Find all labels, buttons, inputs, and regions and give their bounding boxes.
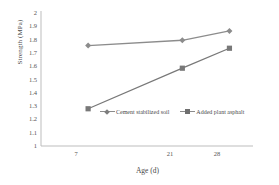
legend-label: Added plant asphalt xyxy=(196,109,244,115)
x-tick-label: 28 xyxy=(214,151,221,158)
legend-label: Cement stabilized soil xyxy=(116,109,169,115)
legend-item-added-plant-asphalt[interactable]: Added plant asphalt xyxy=(180,108,244,115)
square-marker-icon xyxy=(180,108,195,115)
x-axis-title: Age (d) xyxy=(41,166,254,175)
x-tick-label: 21 xyxy=(167,151,174,158)
chart-container: Strength (MPa) 2 1.9 1.8 1.7 1.6 1.5 1.4… xyxy=(0,0,279,185)
legend-item-cement-stabilized-soil[interactable]: Cement stabilized soil xyxy=(100,108,169,115)
chart-legend: Cement stabilized soil Added plant aspha… xyxy=(100,108,244,115)
x-axis-tick-labels: 7 21 28 xyxy=(0,0,279,185)
x-tick-label: 7 xyxy=(74,151,77,158)
diamond-marker-icon xyxy=(100,108,115,115)
